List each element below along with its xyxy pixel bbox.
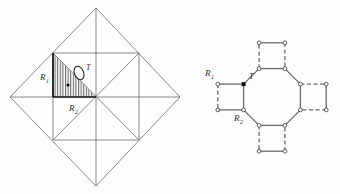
vertex-circle bbox=[257, 124, 261, 128]
vertex-circle bbox=[299, 82, 303, 86]
vertex-circle bbox=[257, 67, 261, 71]
geometry-figure: R 1 R 2 T bbox=[0, 0, 340, 194]
right-label-r1-subscript: 1 bbox=[211, 74, 214, 80]
vertex-circle bbox=[283, 149, 287, 153]
left-label-r2-subscript: 2 bbox=[75, 109, 78, 115]
left-label-r1-subscript: 1 bbox=[46, 78, 49, 84]
left-label-r2: R bbox=[68, 103, 75, 113]
vertex-circle bbox=[283, 67, 287, 71]
highlighted-vertex-t bbox=[242, 82, 246, 86]
right-label-t: T bbox=[249, 72, 254, 81]
vertex-circle bbox=[257, 149, 261, 153]
right-label-r1: R bbox=[204, 68, 211, 78]
figure-container: R 1 R 2 T bbox=[0, 0, 340, 194]
interior-point-dot bbox=[66, 83, 69, 86]
vertex-circle bbox=[216, 108, 220, 112]
right-label-r2: R bbox=[233, 113, 240, 123]
vertex-circle bbox=[242, 108, 246, 112]
left-label-t: T bbox=[86, 63, 91, 72]
left-label-r1: R bbox=[39, 72, 46, 82]
vertex-circle bbox=[283, 124, 287, 128]
vertex-circle bbox=[324, 108, 328, 112]
vertex-circle bbox=[216, 82, 220, 86]
vertex-circle bbox=[324, 82, 328, 86]
vertex-circle bbox=[299, 108, 303, 112]
vertex-circle bbox=[257, 41, 261, 45]
right-label-r2-subscript: 2 bbox=[240, 119, 243, 125]
vertex-circle bbox=[283, 41, 287, 45]
